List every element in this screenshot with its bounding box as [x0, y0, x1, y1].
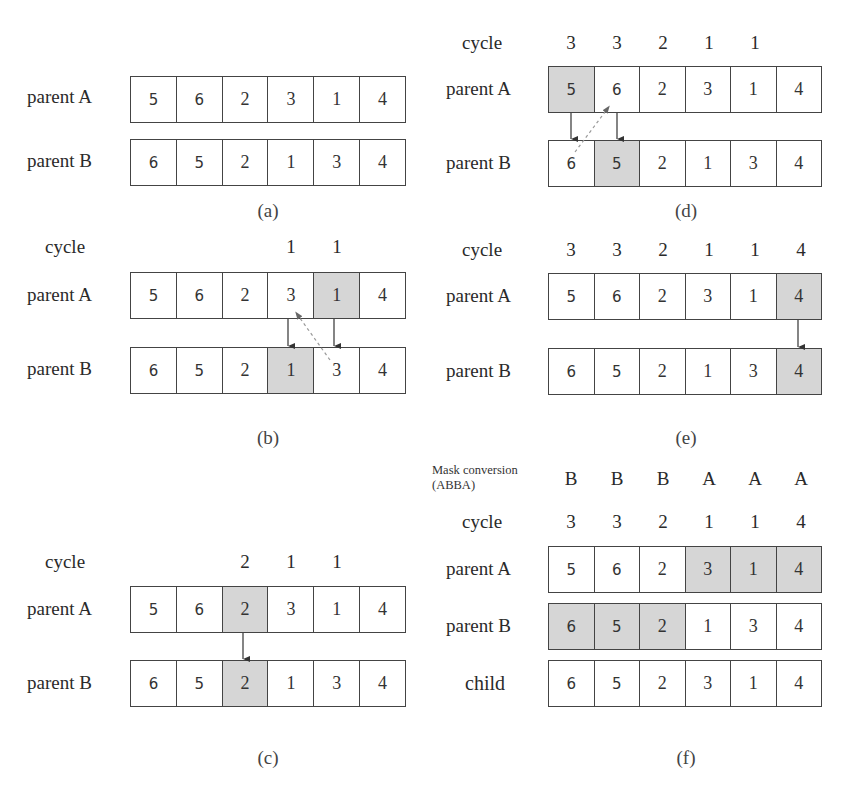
- cycle-number: 4: [778, 239, 824, 263]
- gene-cell: 4: [360, 140, 405, 185]
- gene-cell-highlighted: 4: [777, 547, 822, 592]
- gene-cell: 5: [131, 273, 177, 318]
- cycle-number: 3: [594, 32, 640, 56]
- gene-cell-highlighted: 5: [595, 141, 641, 186]
- gene-cell: 4: [777, 67, 822, 112]
- cycle-number: 1: [686, 32, 732, 56]
- cycle-number: [176, 236, 222, 260]
- gene-cell: 2: [640, 67, 686, 112]
- cycle-number: [778, 32, 824, 56]
- cycle-number: 3: [594, 511, 640, 535]
- gene-cell: 3: [731, 604, 777, 649]
- cycle-number: 1: [314, 551, 360, 575]
- gene-cell: 6: [549, 349, 595, 394]
- gene-cell: 4: [360, 77, 405, 122]
- mask-label-line1: Mask conversion: [432, 463, 518, 478]
- gene-cell: 3: [731, 349, 777, 394]
- parent-b-row: 6 5 2 1 3 4: [548, 348, 822, 395]
- gene-cell: 3: [731, 141, 777, 186]
- gene-cell: 1: [731, 661, 777, 706]
- parent-a-label: parent A: [27, 598, 92, 620]
- gene-cell: 5: [595, 661, 641, 706]
- cycle-number: 1: [732, 239, 778, 263]
- gene-cell: 3: [268, 77, 314, 122]
- mask-label-line2: (ABBA): [432, 478, 518, 493]
- parent-a-label: parent A: [27, 86, 92, 108]
- gene-cell: 5: [177, 140, 223, 185]
- gene-cell-highlighted: 4: [777, 349, 822, 394]
- panel-caption: (c): [238, 747, 298, 769]
- cycle-number: 1: [268, 551, 314, 575]
- cycle-number: 3: [548, 239, 594, 263]
- gene-cell-highlighted: 2: [223, 587, 269, 632]
- cycle-number: [130, 236, 176, 260]
- panel-caption: (f): [656, 747, 716, 769]
- cycle-number: 1: [686, 511, 732, 535]
- cycle-label: cycle: [462, 239, 502, 261]
- gene-cell: 6: [131, 348, 177, 393]
- gene-cell: 2: [640, 661, 686, 706]
- gene-cell: 5: [549, 547, 595, 592]
- gene-cell: 5: [177, 348, 223, 393]
- gene-cell: 3: [686, 274, 732, 319]
- gene-cell: 6: [177, 273, 223, 318]
- gene-cell: 6: [595, 547, 641, 592]
- child-row: 6 5 2 3 1 4: [548, 660, 822, 707]
- mask-letter: A: [686, 468, 732, 492]
- gene-cell: 6: [177, 77, 223, 122]
- gene-cell-highlighted: 6: [549, 604, 595, 649]
- cycle-label: cycle: [45, 236, 85, 258]
- parent-b-row: 6 5 2 1 3 4: [548, 603, 822, 650]
- mask-letter: B: [640, 468, 686, 492]
- parent-b-row: 6 5 2 1 3 4: [548, 140, 822, 187]
- gene-cell: 1: [686, 141, 732, 186]
- panel-caption: (e): [656, 427, 716, 449]
- gene-cell-highlighted: 1: [314, 273, 360, 318]
- gene-cell: 6: [131, 661, 177, 706]
- gene-cell: 1: [314, 77, 360, 122]
- cycle-number: 1: [686, 239, 732, 263]
- cycle-number: 2: [640, 32, 686, 56]
- gene-cell: 4: [777, 141, 822, 186]
- gene-cell: 6: [595, 67, 641, 112]
- cycle-numbers: 3 3 2 1 1 4: [548, 511, 824, 535]
- gene-cell: 3: [686, 67, 732, 112]
- parent-b-label: parent B: [446, 360, 511, 382]
- gene-cell: 2: [223, 348, 269, 393]
- parent-a-row: 5 6 2 3 1 4: [130, 76, 406, 123]
- gene-cell: 4: [360, 587, 405, 632]
- panel-caption: (d): [656, 200, 716, 222]
- gene-cell: 4: [777, 604, 822, 649]
- cycle-number: [130, 551, 176, 575]
- gene-cell: 5: [595, 349, 641, 394]
- gene-cell: 1: [268, 661, 314, 706]
- panel-caption: (a): [238, 200, 298, 222]
- gene-cell-highlighted: 1: [731, 547, 777, 592]
- cycle-number: [360, 236, 406, 260]
- gene-cell: 3: [314, 661, 360, 706]
- cycle-number: 2: [640, 239, 686, 263]
- gene-cell: 2: [223, 140, 269, 185]
- parent-b-label: parent B: [27, 150, 92, 172]
- cycle-numbers: 1 1: [130, 236, 406, 260]
- gene-cell: 2: [223, 77, 269, 122]
- cycle-label: cycle: [45, 551, 85, 573]
- gene-cell-highlighted: 2: [640, 604, 686, 649]
- parent-a-label: parent A: [27, 284, 92, 306]
- gene-cell: 3: [686, 661, 732, 706]
- parent-b-label: parent B: [27, 358, 92, 380]
- parent-a-label: parent A: [446, 558, 511, 580]
- gene-cell: 3: [314, 348, 360, 393]
- cycle-numbers: 3 3 2 1 1: [548, 32, 824, 56]
- mask-letters: B B B A A A: [548, 468, 824, 492]
- parent-b-label: parent B: [27, 672, 92, 694]
- cycle-number: 2: [222, 551, 268, 575]
- gene-cell: 2: [640, 274, 686, 319]
- mask-letter: A: [778, 468, 824, 492]
- cycle-number: [360, 551, 406, 575]
- cycle-numbers: 3 3 2 1 1 4: [548, 239, 824, 263]
- gene-cell: 4: [360, 661, 405, 706]
- parent-b-row: 6 5 2 1 3 4: [130, 139, 406, 186]
- parent-a-row: 5 6 2 3 1 4: [548, 273, 822, 320]
- gene-cell: 2: [223, 273, 269, 318]
